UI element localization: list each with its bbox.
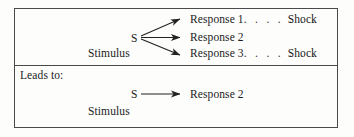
response-1-leader: . . . . . . . bbox=[244, 13, 288, 26]
resolved-response-label: Response 2 bbox=[190, 88, 244, 100]
response-3-outcome: Shock bbox=[288, 47, 317, 59]
response-row-3: Response 3. . . . . . .Shock bbox=[190, 47, 317, 60]
stimulus-symbol-top: S bbox=[131, 32, 138, 45]
stimulus-symbol-bottom: S bbox=[131, 88, 138, 101]
response-3-leader: . . . . . . . bbox=[244, 47, 288, 60]
response-row-2: Response 2 bbox=[190, 31, 244, 44]
stimulus-response-diagram: S Stimulus Response 1. . . . . . .Shock … bbox=[0, 0, 354, 137]
leads-to-caption: Leads to: bbox=[20, 69, 63, 82]
response-row-1: Response 1. . . . . . .Shock bbox=[190, 13, 317, 26]
response-row-resolved: Response 2 bbox=[190, 88, 244, 101]
response-3-label: Response 3 bbox=[190, 47, 244, 59]
stimulus-label-bottom: Stimulus bbox=[88, 105, 130, 118]
stimulus-label-top: Stimulus bbox=[88, 47, 130, 60]
response-2-label: Response 2 bbox=[190, 31, 244, 43]
response-1-label: Response 1 bbox=[190, 13, 244, 25]
response-1-outcome: Shock bbox=[288, 13, 317, 25]
